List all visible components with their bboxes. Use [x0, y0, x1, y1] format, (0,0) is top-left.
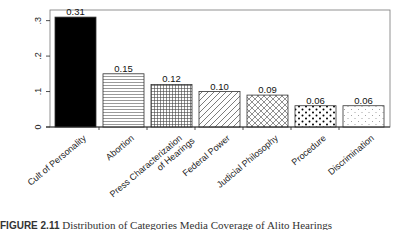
x-category-label: Cult of Personality	[26, 133, 89, 188]
bar-value-label: 0.09	[258, 84, 277, 95]
bar	[199, 92, 240, 127]
bar-value-label: 0.12	[162, 73, 181, 84]
bar-chart: 0.1.2.30.31Cult of Personality0.15Aborti…	[0, 0, 407, 230]
figure-caption-text: Distribution of Categories Media Coverag…	[62, 219, 332, 230]
figure-label: FIGURE 2.11	[0, 220, 59, 230]
bar	[151, 84, 192, 127]
bar-value-label: 0.15	[114, 63, 133, 74]
bar-value-label: 0.06	[306, 95, 325, 106]
y-tick-label: 0	[33, 124, 43, 129]
y-tick-label: .2	[33, 52, 43, 60]
bar	[295, 106, 336, 127]
x-category-label: Procedure	[290, 133, 328, 167]
x-category-label: Abortion	[104, 133, 136, 162]
y-tick-label: .1	[33, 88, 43, 96]
bar-value-label: 0.31	[66, 6, 85, 17]
bar-value-label: 0.10	[210, 81, 229, 92]
x-category-label: Discrimination	[326, 133, 376, 177]
y-tick-label: .3	[33, 17, 43, 25]
bar	[343, 106, 384, 127]
figure-caption: FIGURE 2.11 Distribution of Categories M…	[0, 219, 332, 230]
bar	[103, 74, 144, 127]
bar	[247, 95, 288, 127]
bar	[55, 17, 96, 127]
bar-value-label: 0.06	[354, 95, 373, 106]
